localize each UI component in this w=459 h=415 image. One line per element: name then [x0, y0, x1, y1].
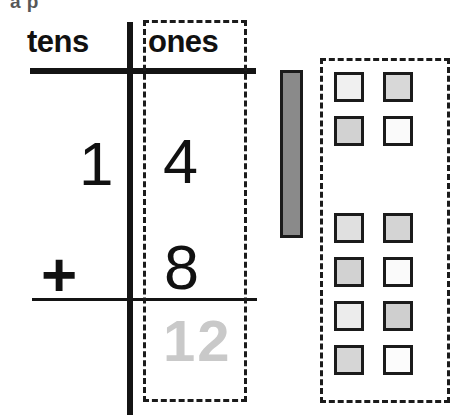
- unit-square-block: [383, 257, 413, 287]
- digit-ones-addend1: 4: [163, 130, 198, 193]
- digit-tens-addend1: 1: [79, 132, 113, 195]
- unit-square-block: [383, 345, 413, 375]
- unit-square-block: [383, 72, 413, 102]
- unit-square-block: [334, 257, 364, 287]
- unit-square-block: [334, 213, 364, 243]
- unit-square-block: [334, 301, 364, 331]
- unit-square-block: [334, 345, 364, 375]
- unit-square-block: [383, 213, 413, 243]
- cut-off-heading-sliver: a p: [10, 0, 39, 13]
- unit-square-block: [383, 301, 413, 331]
- unit-square-block: [334, 116, 364, 146]
- unit-square-block: [383, 116, 413, 146]
- unit-square-block: [334, 72, 364, 102]
- place-value-column-rule: [127, 22, 133, 415]
- ten-rod-block: [280, 70, 303, 238]
- plus-operator: +: [41, 243, 77, 306]
- column-header-tens: tens: [27, 26, 89, 57]
- answer-ones-sum: 12: [163, 312, 232, 370]
- digit-ones-addend2: 8: [164, 236, 199, 299]
- worksheet-canvas: a p tens ones 1 4 + 8 12: [0, 0, 459, 415]
